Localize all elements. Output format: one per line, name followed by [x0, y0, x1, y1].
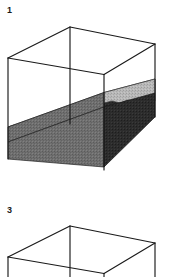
panel-3-box-diagram — [0, 219, 173, 277]
panel-1-number-label: 1 — [7, 6, 12, 15]
edge-top-front-left — [8, 257, 104, 274]
panel-1-box-diagram — [0, 18, 173, 193]
edge-top-front-right — [104, 44, 155, 75]
edge-top-back-right — [70, 27, 155, 44]
edge-top-back-left — [8, 27, 70, 58]
panel-1: 1 — [0, 0, 173, 199]
panel-3: 3 — [0, 199, 173, 277]
edge-top-back-left — [8, 226, 70, 257]
edge-top-back-right — [70, 226, 155, 243]
edge-top-front-right — [104, 243, 155, 274]
box-wireframe — [8, 226, 155, 277]
figure-root: 1 — [0, 0, 173, 277]
panel-3-number-label: 3 — [7, 206, 12, 215]
edge-top-front-left — [8, 58, 104, 75]
sediment-block — [8, 79, 155, 167]
